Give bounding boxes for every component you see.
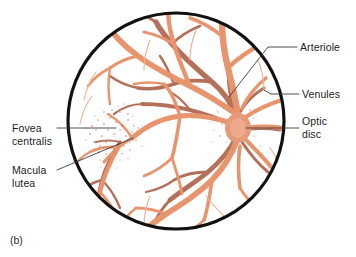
label-optic-disc: Optic disc: [302, 115, 327, 140]
label-venules: Venules: [302, 88, 340, 101]
label-arteriole: Arteriole: [300, 41, 340, 54]
figure-caption: (b): [10, 234, 23, 246]
label-macula-lutea: Macula lutea: [12, 164, 46, 189]
retina-figure: Arteriole Venules Optic disc Fovea centr…: [0, 0, 356, 257]
label-fovea-centralis: Fovea centralis: [12, 122, 52, 147]
